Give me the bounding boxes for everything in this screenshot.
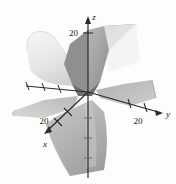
surface-plot-figure: z 20 y 20 x 20 [0, 0, 176, 184]
x-axis-label: x [42, 139, 47, 149]
x-axis-tick-label: 20 [40, 116, 50, 126]
z-axis-tick-label: 20 [69, 28, 79, 38]
surface-plot-canvas: z 20 y 20 x 20 [0, 0, 176, 184]
y-axis-label: y [165, 109, 170, 119]
z-axis-label: z [91, 12, 96, 22]
y-axis-tick-label: 20 [134, 116, 144, 126]
